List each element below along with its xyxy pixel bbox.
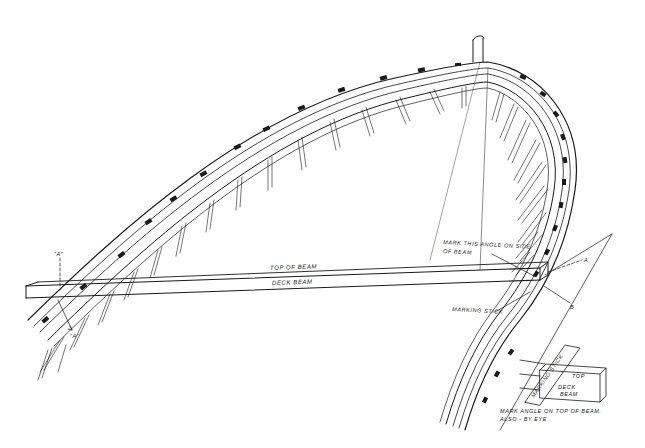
- label-point-a-left-bottom: "A": [70, 333, 80, 339]
- caption-line-2: ALSO - BY EYE: [499, 416, 547, 422]
- deck-beam-drawing: TOP OF BEAM DECK BEAM MARK THIS ANGLE ON…: [0, 0, 645, 448]
- label-detail-top: TOP: [572, 373, 585, 379]
- label-deck-beam: DECK BEAM: [272, 279, 313, 286]
- label-detail-deck: DECK: [558, 384, 576, 390]
- stem-post: [473, 36, 484, 62]
- label-mark-angle-side-2: OF BEAM: [443, 248, 472, 256]
- sheer-blocks: [41, 63, 567, 404]
- label-point-b-right: B: [570, 304, 574, 310]
- label-top-of-beam: TOP OF BEAM: [270, 263, 317, 271]
- caption-line-1: MARK ANGLE ON TOP OF BEAM.: [500, 408, 601, 414]
- label-point-a-right: A: [583, 257, 588, 263]
- label-point-a-left-top: "A": [54, 251, 64, 257]
- label-detail-beam: BEAM: [560, 391, 578, 397]
- label-marking-stick: MARKING STICK: [452, 306, 503, 315]
- diagram-canvas: TOP OF BEAM DECK BEAM MARK THIS ANGLE ON…: [0, 0, 645, 448]
- frame-ribs: [38, 62, 548, 380]
